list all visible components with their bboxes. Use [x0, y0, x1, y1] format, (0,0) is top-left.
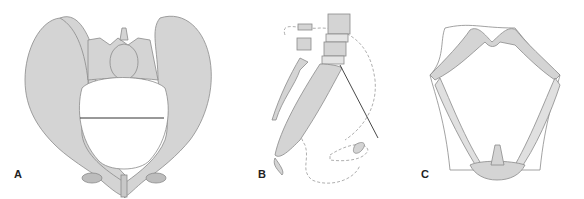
panel-label-b: B	[258, 168, 266, 180]
panel-c-outlet	[430, 25, 560, 180]
panel-a-pelvis	[25, 16, 211, 198]
panel-b-sagittal	[272, 14, 378, 183]
panel-label-a: A	[14, 168, 22, 180]
conjugate-diameter-line	[340, 65, 378, 138]
panel-label-c: C	[421, 168, 429, 180]
pelvis-diagram	[0, 0, 584, 199]
